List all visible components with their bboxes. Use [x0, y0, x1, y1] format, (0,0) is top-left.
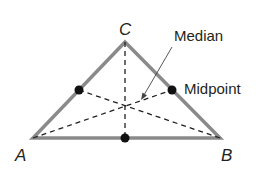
vertex-label-c: C — [119, 20, 132, 39]
triangle-median-diagram: C A B Median Midpoint — [0, 0, 273, 172]
midpoint-ab-dot — [121, 134, 130, 143]
median-pointer-arrow — [141, 47, 172, 100]
vertex-label-b: B — [221, 146, 232, 165]
median-label: Median — [174, 27, 223, 44]
midpoint-ac-dot — [75, 86, 84, 95]
midpoint-label: Midpoint — [184, 80, 242, 97]
midpoint-bc-dot — [168, 86, 177, 95]
median-from-b — [79, 90, 220, 138]
vertex-label-a: A — [14, 146, 26, 165]
